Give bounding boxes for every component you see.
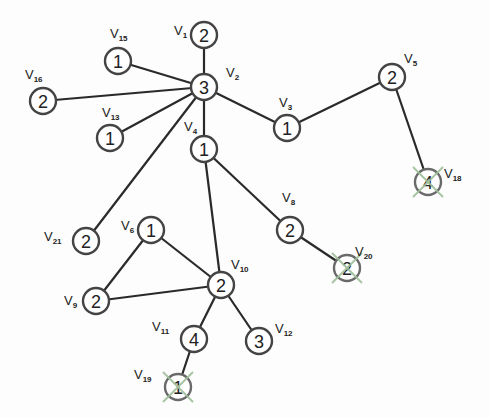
node-v12: 3V12 [246,321,293,354]
node-v10: 2V10 [208,257,249,298]
node-v3: 1V3 [274,95,300,141]
node-label: V1 [174,23,188,40]
node-label: V9 [64,293,78,310]
node-value: 2 [91,292,101,312]
node-value: 1 [146,221,156,241]
node-value: 4 [189,330,199,350]
node-v2: 3V2 [191,65,240,100]
node-v21: 2V21 [44,228,99,254]
node-label: V8 [282,190,296,207]
node-label: V21 [44,229,62,246]
node-value: 1 [113,52,123,72]
node-v9: 2V9 [64,288,109,314]
node-v16: 2V16 [25,67,56,114]
edge-v4-v10 [204,149,221,285]
node-value: 3 [254,332,264,352]
node-value: 2 [81,232,91,252]
nodes-layer: 2V13V21V152V161V131V32V54V181V42V82V202V… [25,22,462,402]
node-value: 3 [199,78,209,98]
node-value: 2 [38,92,48,112]
node-v1: 2V1 [174,22,217,48]
edge-v5-v18 [392,77,428,182]
node-v20: 2V20 [332,244,373,283]
node-value: 2 [285,221,295,241]
node-label: V10 [231,257,249,274]
node-label: V20 [355,244,373,261]
node-label: V12 [275,321,293,338]
node-label: V4 [184,119,198,136]
edge-v3-v5 [287,77,392,128]
node-label: V18 [444,166,462,183]
node-label: V11 [152,319,170,336]
graph-diagram: 2V13V21V152V161V131V32V54V181V42V82V202V… [0,0,489,418]
node-v8: 2V8 [277,190,303,243]
node-v15: 1V15 [105,26,131,74]
node-label: V3 [279,95,293,112]
node-label: V2 [226,65,240,82]
node-label: V16 [25,67,43,84]
node-label: V19 [134,367,152,384]
node-v5: 2V5 [379,51,418,90]
node-value: 2 [387,68,397,88]
node-v4: 1V4 [184,119,217,162]
node-label: V15 [110,26,128,43]
edges-layer [43,35,428,387]
node-label: V5 [404,51,418,68]
node-v6: 1V6 [121,217,164,243]
node-v13: 1V13 [97,105,123,151]
edge-v9-v10 [96,285,221,301]
node-value: 1 [105,129,115,149]
node-value: 1 [199,140,209,160]
node-value: 1 [282,119,292,139]
node-label: V13 [102,105,120,122]
node-v18: 4V18 [413,166,462,197]
node-value: 2 [199,26,209,46]
node-label: V6 [121,218,135,235]
graph-canvas: 2V13V21V152V161V131V32V54V181V42V82V202V… [0,0,489,418]
edge-v4-v8 [204,149,290,230]
node-value: 2 [216,276,226,296]
node-v19: 1V19 [134,367,193,402]
node-v11: 4V11 [152,319,207,352]
